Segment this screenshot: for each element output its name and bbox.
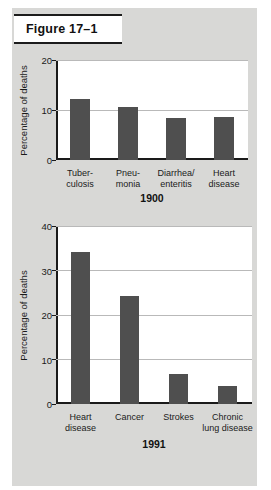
figure-title-block: Figure 17–1 <box>14 14 122 44</box>
y-tick-mark <box>52 60 56 61</box>
y-tick-label: 30 <box>41 265 52 276</box>
x-category-label: Chroniclung disease <box>197 412 258 433</box>
y-tick-mark <box>52 270 56 271</box>
y-tick-label: 10 <box>41 354 52 365</box>
y-tick-mark <box>52 404 56 405</box>
x-label-line: disease <box>194 179 254 190</box>
figure-title: Figure 17–1 <box>14 22 98 36</box>
x-category-label: Heartdisease <box>194 168 254 189</box>
figure-title-box: Figure 17–1 <box>14 16 122 42</box>
gridline <box>56 60 248 61</box>
y-tick-mark <box>52 226 56 227</box>
y-tick-mark <box>52 359 56 360</box>
bar <box>70 99 89 160</box>
bar <box>218 386 238 404</box>
bar <box>118 107 137 160</box>
y-tick-label: 20 <box>41 55 52 66</box>
gridline <box>56 226 252 227</box>
bar <box>71 252 91 404</box>
y-tick-mark <box>52 110 56 111</box>
bar <box>169 374 189 404</box>
figure-page: Figure 17–1 Percentage of deaths 01020 T… <box>0 0 271 490</box>
chart-1991: Percentage of deaths 010203040 Heartdise… <box>14 222 254 472</box>
bar <box>120 296 140 404</box>
y-tick-label: 20 <box>41 310 52 321</box>
title-rule-bottom <box>14 42 122 44</box>
y-tick-mark <box>52 160 56 161</box>
x-label-line: disease <box>50 423 111 434</box>
chart-1900: Percentage of deaths 01020 Tuber-culosis… <box>14 56 254 211</box>
x-label-line: lung disease <box>197 423 258 434</box>
chart-1900-plot-area: 01020 <box>56 60 248 160</box>
bar <box>166 118 185 160</box>
chart-1991-year-label: 1991 <box>56 438 252 450</box>
y-tick-label: 10 <box>41 105 52 116</box>
chart-1900-year-label: 1900 <box>56 192 248 204</box>
chart-1991-y-axis-label: Percentage of deaths <box>16 222 30 408</box>
y-tick-label: 40 <box>41 221 52 232</box>
chart-1991-plot-area: 010203040 <box>56 226 252 404</box>
bar <box>214 117 233 160</box>
x-label-line: Heart <box>194 168 254 179</box>
y-tick-mark <box>52 315 56 316</box>
chart-1900-y-axis-label: Percentage of deaths <box>16 56 30 164</box>
x-label-line: Chronic <box>197 412 258 423</box>
